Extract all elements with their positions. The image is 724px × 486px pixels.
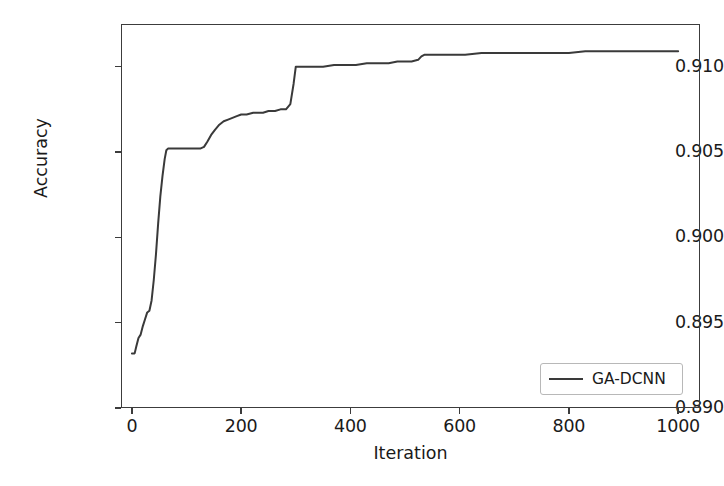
x-tick-label: 600 [400, 418, 520, 436]
x-axis-title: Iteration [121, 444, 700, 462]
x-tick-label: 800 [509, 418, 629, 436]
x-tick-mark [459, 408, 461, 414]
x-tick-label: 400 [290, 418, 410, 436]
x-tick-mark [350, 408, 352, 414]
chart-legend: GA-DCNN [540, 363, 683, 395]
x-tick-mark [568, 408, 570, 414]
x-tick-mark [677, 408, 679, 414]
x-tick-label: 200 [181, 418, 301, 436]
x-tick-label: 1000 [618, 418, 724, 436]
x-tick-label: 0 [72, 418, 192, 436]
legend-label-ga-dcnn: GA-DCNN [592, 371, 666, 387]
legend-line-swatch [549, 378, 583, 380]
x-tick-mark [240, 408, 242, 414]
x-tick-mark [131, 408, 133, 414]
plot-canvas [121, 24, 700, 408]
accuracy-vs-iteration-chart: 0.8900.8950.9000.9050.910 02004006008001… [0, 0, 724, 486]
y-axis-title: Accuracy [32, 91, 50, 225]
series-line-ga-dcnn [132, 51, 678, 353]
